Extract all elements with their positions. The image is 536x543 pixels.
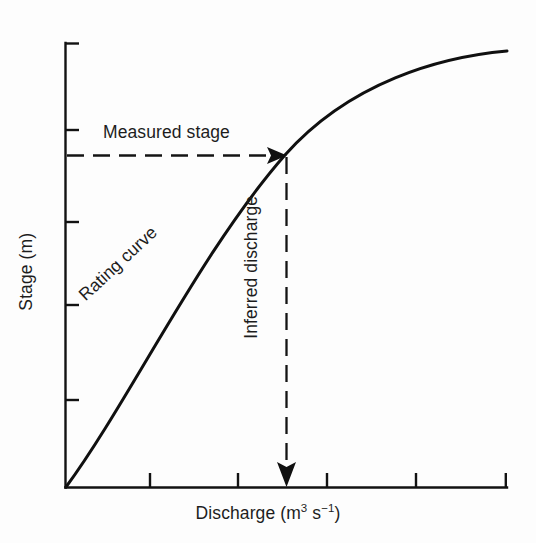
rating-curve-figure: Measured stage Rating curve Inferred dis…: [0, 0, 536, 543]
x-axis-label-suffix: ): [334, 503, 340, 523]
measured-stage-arrowhead-icon: [267, 147, 287, 164]
x-axis-label-mid: s: [307, 503, 321, 523]
inferred-discharge-annotation-label: Inferred discharge: [243, 196, 261, 339]
inferred-discharge-arrowhead-icon: [277, 462, 296, 487]
x-axis-label: Discharge (m3 s−1): [0, 505, 536, 523]
x-axis-label-exponent-minus1: −1: [321, 502, 334, 514]
x-axis-label-prefix: Discharge (m: [196, 503, 301, 523]
measured-stage-annotation-label: Measured stage: [103, 124, 230, 142]
plot-canvas: [0, 0, 536, 543]
y-axis-label: Stage (m): [18, 212, 36, 332]
